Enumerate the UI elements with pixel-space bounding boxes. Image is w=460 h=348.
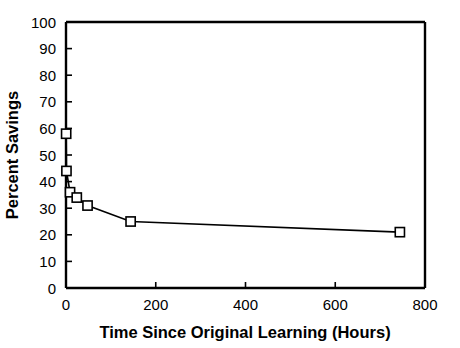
data-point-marker — [83, 201, 92, 210]
x-tick-label: 600 — [323, 296, 348, 313]
x-tick-label: 0 — [62, 296, 70, 313]
y-tick-label: 70 — [39, 93, 56, 110]
y-tick-label: 30 — [39, 200, 56, 217]
y-tick-label: 90 — [39, 40, 56, 57]
chart-canvas: 0102030405060708090100 0200400600800 Tim… — [0, 0, 460, 348]
y-tick-label: 10 — [39, 253, 56, 270]
x-tick-label: 200 — [143, 296, 168, 313]
forgetting-curve-chart: 0102030405060708090100 0200400600800 Tim… — [0, 0, 460, 348]
y-tick-label: 50 — [39, 147, 56, 164]
data-point-marker — [62, 166, 71, 175]
y-axis-title: Percent Savings — [3, 91, 21, 219]
x-axis-title: Time Since Original Learning (Hours) — [99, 323, 390, 341]
x-tick-label: 800 — [412, 296, 437, 313]
y-tick-label: 40 — [39, 173, 56, 190]
data-point-marker — [395, 228, 404, 237]
y-tick-label: 0 — [48, 280, 56, 297]
data-point-marker — [62, 129, 71, 138]
x-tick-label: 400 — [233, 296, 258, 313]
y-tick-label: 100 — [31, 14, 56, 31]
data-point-marker — [126, 217, 135, 226]
y-tick-label: 20 — [39, 226, 56, 243]
y-tick-label: 60 — [39, 120, 56, 137]
data-point-marker — [72, 193, 81, 202]
y-tick-label: 80 — [39, 67, 56, 84]
